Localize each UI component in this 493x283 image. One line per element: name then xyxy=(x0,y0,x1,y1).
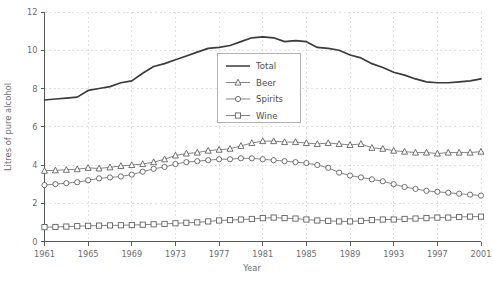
x-tick-label: 1985 xyxy=(296,249,317,259)
square-marker-icon xyxy=(358,218,363,223)
square-marker-icon xyxy=(235,113,240,118)
circle-marker-icon xyxy=(53,182,58,187)
y-tick-label: 8 xyxy=(32,84,37,94)
square-marker-icon xyxy=(478,214,483,219)
square-marker-icon xyxy=(151,222,156,227)
circle-marker-icon xyxy=(206,158,211,163)
chart-canvas: 024681012 196119651969197319771981198519… xyxy=(0,0,493,283)
circle-marker-icon xyxy=(478,193,483,198)
square-marker-icon xyxy=(140,222,145,227)
square-marker-icon xyxy=(64,224,69,229)
square-marker-icon xyxy=(107,223,112,228)
circle-marker-icon xyxy=(391,182,396,187)
x-axis-title: Year xyxy=(242,263,261,273)
square-marker-icon xyxy=(53,224,58,229)
circle-marker-icon xyxy=(347,173,352,178)
circle-marker-icon xyxy=(184,160,189,165)
y-tick-label: 10 xyxy=(27,45,37,55)
square-marker-icon xyxy=(347,219,352,224)
square-marker-icon xyxy=(402,216,407,221)
square-marker-icon xyxy=(206,219,211,224)
square-marker-icon xyxy=(162,221,167,226)
square-marker-icon xyxy=(195,220,200,225)
circle-marker-icon xyxy=(315,162,320,167)
circle-marker-icon xyxy=(42,182,47,187)
square-marker-icon xyxy=(282,216,287,221)
x-tick-label: 2001 xyxy=(471,249,492,259)
square-marker-icon xyxy=(467,214,472,219)
circle-marker-icon xyxy=(195,159,200,164)
square-marker-icon xyxy=(369,217,374,222)
circle-marker-icon xyxy=(424,188,429,193)
square-marker-icon xyxy=(304,217,309,222)
circle-marker-icon xyxy=(271,158,276,163)
y-axis-tick-labels: 024681012 xyxy=(27,7,37,247)
x-tick-label: 1961 xyxy=(34,249,55,259)
x-tick-label: 1965 xyxy=(78,249,99,259)
x-tick-label: 1973 xyxy=(165,249,186,259)
square-marker-icon xyxy=(227,217,232,222)
square-marker-icon xyxy=(457,214,462,219)
circle-marker-icon xyxy=(235,96,240,101)
legend-label: Total xyxy=(255,61,276,71)
y-tick-label: 6 xyxy=(32,122,37,132)
square-marker-icon xyxy=(413,216,418,221)
circle-marker-icon xyxy=(358,175,363,180)
square-marker-icon xyxy=(315,218,320,223)
square-marker-icon xyxy=(238,217,243,222)
square-marker-icon xyxy=(96,223,101,228)
y-tick-label: 4 xyxy=(32,160,37,170)
circle-marker-icon xyxy=(260,157,265,162)
circle-marker-icon xyxy=(238,156,243,161)
square-marker-icon xyxy=(260,216,265,221)
square-marker-icon xyxy=(326,218,331,223)
x-tick-label: 1977 xyxy=(209,249,230,259)
circle-marker-icon xyxy=(435,189,440,194)
circle-marker-icon xyxy=(173,161,178,166)
square-marker-icon xyxy=(129,222,134,227)
circle-marker-icon xyxy=(380,179,385,184)
chart-legend: TotalBeerSpiritsWine xyxy=(218,54,301,123)
series-wine xyxy=(42,214,484,230)
square-marker-icon xyxy=(271,215,276,220)
square-marker-icon xyxy=(249,216,254,221)
square-marker-icon xyxy=(75,224,80,229)
triangle-marker-icon xyxy=(85,165,91,171)
circle-marker-icon xyxy=(369,177,374,182)
circle-marker-icon xyxy=(217,157,222,162)
triangle-marker-icon xyxy=(478,148,484,154)
y-axis-title: Litres of pure alcohol xyxy=(3,83,13,171)
square-marker-icon xyxy=(293,216,298,221)
circle-marker-icon xyxy=(140,169,145,174)
y-axis-ticks xyxy=(41,12,45,242)
circle-marker-icon xyxy=(118,174,123,179)
circle-marker-icon xyxy=(402,184,407,189)
circle-marker-icon xyxy=(457,191,462,196)
triangle-marker-icon xyxy=(358,141,364,147)
circle-marker-icon xyxy=(337,170,342,175)
circle-marker-icon xyxy=(446,190,451,195)
triangle-marker-icon xyxy=(325,140,331,146)
circle-marker-icon xyxy=(227,157,232,162)
y-tick-label: 0 xyxy=(32,237,37,247)
square-marker-icon xyxy=(446,215,451,220)
square-marker-icon xyxy=(173,221,178,226)
circle-marker-icon xyxy=(304,160,309,165)
circle-marker-icon xyxy=(249,156,254,161)
circle-marker-icon xyxy=(107,175,112,180)
square-marker-icon xyxy=(391,217,396,222)
square-marker-icon xyxy=(435,215,440,220)
x-tick-label: 1993 xyxy=(383,249,404,259)
alcohol-consumption-chart: 024681012 196119651969197319771981198519… xyxy=(0,0,493,283)
square-marker-icon xyxy=(118,223,123,228)
y-tick-label: 2 xyxy=(32,198,37,208)
circle-marker-icon xyxy=(293,160,298,165)
legend-label: Wine xyxy=(256,111,277,121)
circle-marker-icon xyxy=(326,165,331,170)
x-tick-label: 1981 xyxy=(252,249,273,259)
x-tick-label: 1989 xyxy=(340,249,361,259)
circle-marker-icon xyxy=(86,178,91,183)
square-marker-icon xyxy=(184,220,189,225)
circle-marker-icon xyxy=(162,164,167,169)
circle-marker-icon xyxy=(282,159,287,164)
